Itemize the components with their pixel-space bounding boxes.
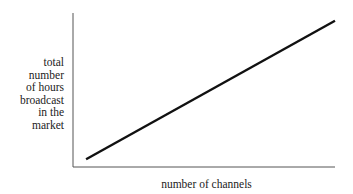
x-axis-label: number of channels: [0, 178, 353, 190]
y-label-line: market: [4, 119, 64, 132]
y-label-line: total: [4, 56, 64, 69]
y-label-line: of hours: [4, 81, 64, 94]
line-chart: total number of hours broadcast in the m…: [0, 0, 353, 194]
data-line: [86, 21, 335, 160]
y-label-line: broadcast: [4, 94, 64, 107]
y-label-line: in the: [4, 106, 64, 119]
y-label-line: number: [4, 69, 64, 82]
y-axis-label: total number of hours broadcast in the m…: [4, 56, 64, 132]
